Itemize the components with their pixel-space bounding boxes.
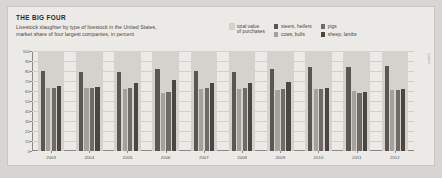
chart-title: THE BIG FOUR <box>16 14 66 21</box>
bar <box>84 88 88 151</box>
legend-item-steers-heifers: steers, heifers <box>274 24 312 29</box>
y-axis-tick-label: 80 <box>25 69 30 74</box>
x-axis-tick-label: 2003 <box>46 155 56 160</box>
bar <box>401 89 405 151</box>
x-tick-mark <box>166 151 167 153</box>
y-tick-mark <box>30 81 32 82</box>
y-axis-tick-label: 30 <box>25 119 30 124</box>
bar <box>314 89 318 151</box>
bar-group: 2005 <box>114 51 141 151</box>
subtitle-line-1: Livestock slaughter by type of livestock… <box>16 24 216 31</box>
bar <box>210 83 214 151</box>
bar <box>363 92 367 151</box>
bar <box>52 88 56 151</box>
y-tick-mark <box>30 101 32 102</box>
bar-group: 2004 <box>76 51 103 151</box>
y-tick-mark <box>30 131 32 132</box>
y-tick-mark <box>30 61 32 62</box>
bar-set <box>382 51 409 151</box>
legend-label-total-value: total value of purchases <box>237 24 265 35</box>
legend-swatch-sheep-lambs <box>321 32 325 36</box>
y-tick-mark <box>30 151 32 152</box>
y-axis-tick-label: 10 <box>25 139 30 144</box>
bar <box>134 83 138 151</box>
legend-column-2: steers, heifers cows, bulls <box>274 24 312 37</box>
x-axis-tick-label: 2012 <box>390 155 400 160</box>
x-tick-mark <box>280 151 281 153</box>
bar-group: 2009 <box>267 51 294 151</box>
bar <box>270 69 274 151</box>
legend-swatch-pigs <box>321 24 325 28</box>
x-tick-mark <box>51 151 52 153</box>
legend-column-1: total value of purchases <box>230 24 265 37</box>
bar-group: 2008 <box>229 51 256 151</box>
bar <box>166 92 170 151</box>
y-axis-tick-label: 100 <box>23 49 30 54</box>
legend-swatch-total-value <box>230 24 234 28</box>
legend-label-sheep-lambs: sheep, lambs <box>328 32 357 37</box>
x-tick-mark <box>242 151 243 153</box>
legend-swatch-steers-heifers <box>274 24 278 28</box>
x-tick-mark <box>395 151 396 153</box>
bar <box>46 88 50 151</box>
bar <box>57 86 61 151</box>
plot-area: 0102030405060708090100200320042005200620… <box>32 51 414 151</box>
y-axis-tick-label: 0 <box>27 149 29 154</box>
y-axis-tick-label: 60 <box>25 89 30 94</box>
bar <box>199 89 203 151</box>
y-tick-mark <box>30 71 32 72</box>
x-axis-tick-label: 2006 <box>161 155 171 160</box>
x-axis-tick-label: 2005 <box>123 155 133 160</box>
bar <box>325 88 329 151</box>
legend-item-pigs: pigs <box>321 24 357 29</box>
bar-set <box>38 51 65 151</box>
bar-set <box>305 51 332 151</box>
x-axis-tick-label: 2007 <box>199 155 209 160</box>
y-tick-mark <box>30 121 32 122</box>
legend-label-steers-heifers: steers, heifers <box>281 24 312 29</box>
bar-group: 2010 <box>305 51 332 151</box>
y-axis-tick-label: 70 <box>25 79 30 84</box>
bar-set <box>76 51 103 151</box>
x-axis-tick-label: 2008 <box>237 155 247 160</box>
chart-figure: THE BIG FOUR Livestock slaughter by type… <box>8 7 434 165</box>
y-tick-mark <box>30 91 32 92</box>
x-axis-tick-label: 2011 <box>352 155 361 160</box>
x-tick-mark <box>89 151 90 153</box>
x-tick-mark <box>357 151 358 153</box>
bar <box>117 72 121 151</box>
bar-set <box>343 51 370 151</box>
subtitle-line-2: market share of four largest companies, … <box>16 31 216 38</box>
legend-label-pigs: pigs <box>328 24 337 29</box>
bar <box>357 93 361 151</box>
x-axis-tick-label: 2004 <box>84 155 94 160</box>
legend-item-cows-bulls: cows, bulls <box>274 32 312 37</box>
y-tick-mark <box>30 51 32 52</box>
x-tick-mark <box>318 151 319 153</box>
bar <box>346 67 350 151</box>
bar <box>237 89 241 151</box>
chart-legend: total value of purchases steers, heifers… <box>230 24 357 37</box>
bar <box>79 72 83 151</box>
bar <box>172 80 176 151</box>
bar <box>396 90 400 151</box>
bar <box>275 90 279 151</box>
bar <box>352 91 356 151</box>
y-axis-tick-label: 90 <box>25 59 30 64</box>
bar <box>308 67 312 151</box>
bar <box>286 82 290 151</box>
source-credit: source <box>427 53 431 64</box>
bar <box>232 72 236 151</box>
bar <box>123 89 127 151</box>
x-tick-mark <box>127 151 128 153</box>
bar-group: 2003 <box>38 51 65 151</box>
x-axis-tick-label: 2010 <box>314 155 324 160</box>
bar <box>128 88 132 151</box>
bar <box>390 90 394 151</box>
bar-group: 2011 <box>343 51 370 151</box>
bar <box>95 87 99 151</box>
bar <box>243 88 247 151</box>
bar-set <box>229 51 256 151</box>
chart-subtitle: Livestock slaughter by type of livestock… <box>16 24 216 37</box>
bar <box>319 89 323 151</box>
